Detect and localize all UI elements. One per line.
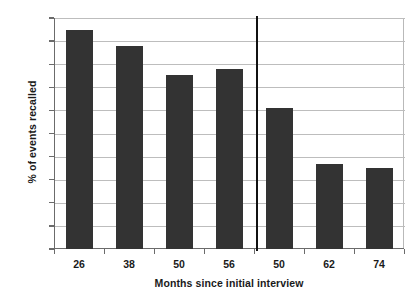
y-tick-mark (49, 17, 54, 18)
y-tick-mark (49, 133, 54, 134)
y-tick-mark (49, 156, 54, 157)
y-tick-mark (49, 87, 54, 88)
x-axis-title: Months since initial interview (54, 277, 404, 289)
gridline (55, 64, 405, 65)
x-tick-label: 50 (154, 258, 204, 270)
y-tick-mark (49, 202, 54, 203)
bar-chart: % of events recalled 0102030405060708090… (0, 0, 416, 300)
x-tick-label: 56 (204, 258, 254, 270)
gridline (55, 18, 405, 19)
x-tick-label: 26 (54, 258, 104, 270)
bar (166, 75, 193, 249)
x-tick-label: 74 (354, 258, 404, 270)
x-tick-mark (254, 249, 255, 254)
bar (316, 164, 343, 249)
x-tick-mark (104, 249, 105, 254)
y-tick-mark (49, 40, 54, 41)
group-divider-line (256, 16, 258, 251)
x-tick-mark (204, 249, 205, 254)
bar (366, 168, 393, 249)
y-tick-mark (49, 110, 54, 111)
y-axis-title: % of events recalled (26, 37, 38, 227)
x-tick-mark (54, 249, 55, 254)
y-tick-mark (49, 225, 54, 226)
x-tick-mark (304, 249, 305, 254)
x-tick-label: 50 (254, 258, 304, 270)
x-tick-mark (354, 249, 355, 254)
x-tick-label: 38 (104, 258, 154, 270)
bar (116, 46, 143, 249)
bar (266, 108, 293, 249)
gridline (55, 41, 405, 42)
x-tick-label: 62 (304, 258, 354, 270)
y-tick-mark (49, 64, 54, 65)
x-tick-mark (154, 249, 155, 254)
bar (66, 30, 93, 249)
y-tick-mark (49, 179, 54, 180)
bar (216, 69, 243, 249)
x-tick-mark (404, 249, 405, 254)
